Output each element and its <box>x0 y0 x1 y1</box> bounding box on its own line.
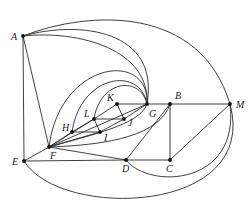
vertex-L <box>92 117 96 121</box>
graph-diagram: ABMGKLJHIFEDC <box>0 0 251 215</box>
edge-E-F <box>24 147 49 161</box>
vertex-label-G: G <box>149 108 156 119</box>
edge-A-G-outer <box>23 29 148 104</box>
vertex-D <box>124 158 128 162</box>
vertex-H <box>70 130 74 134</box>
vertex-label-H: H <box>61 122 70 133</box>
edge-H-L <box>72 119 94 132</box>
vertex-A <box>21 34 25 38</box>
vertex-G <box>145 102 149 106</box>
vertex-label-I: I <box>103 132 108 143</box>
edge-E-D <box>24 160 126 161</box>
vertex-label-M: M <box>235 99 245 110</box>
vertex-label-K: K <box>106 92 115 103</box>
vertex-label-F: F <box>49 150 57 161</box>
edge-A-E <box>23 36 24 161</box>
vertex-K <box>115 102 119 106</box>
vertex-B <box>168 102 172 106</box>
edge-G-D <box>126 104 170 160</box>
vertex-C <box>168 158 172 162</box>
vertex-label-E: E <box>11 156 18 167</box>
edge-A-M <box>23 20 230 104</box>
vertex-I <box>98 130 102 134</box>
vertex-label-A: A <box>10 31 18 42</box>
vertex-F <box>47 145 51 149</box>
vertex-label-D: D <box>121 163 130 174</box>
vertex-label-L: L <box>83 108 90 119</box>
edge-A-F <box>23 36 49 147</box>
vertex-M <box>228 102 232 106</box>
vertex-label-C: C <box>166 163 173 174</box>
edge-F-D <box>49 147 126 160</box>
vertex-label-J: J <box>128 117 133 128</box>
vertex-E <box>22 159 26 163</box>
vertex-label-B: B <box>175 90 181 101</box>
labels-group: ABMGKLJHIFEDC <box>10 31 245 174</box>
vertex-J <box>122 117 126 121</box>
